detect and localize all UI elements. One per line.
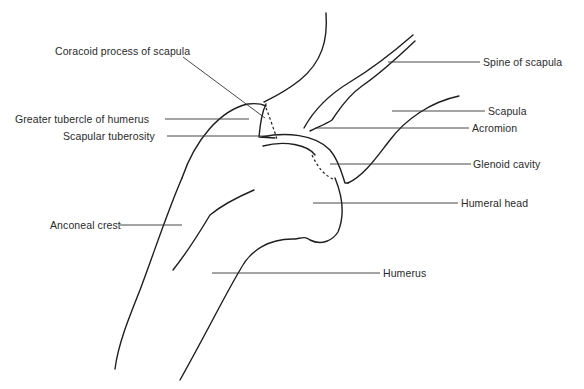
scapula-outline	[264, 13, 326, 102]
humerus-head-outline	[182, 104, 266, 178]
label-glenoid-cavity: Glenoid cavity	[473, 158, 540, 170]
scapula-body-line	[348, 96, 459, 183]
label-anconeal-crest: Anconeal crest	[50, 219, 121, 231]
label-scapular-tuberosity: Scapular tuberosity	[63, 130, 155, 142]
label-coracoid-process: Coracoid process of scapula	[55, 45, 190, 57]
anconeal-crest-line	[173, 190, 254, 270]
label-acromion: Acromion	[472, 122, 517, 134]
humeral-head-curve	[180, 178, 342, 380]
leader-coracoid	[183, 57, 265, 118]
spine-of-scapula-lower	[310, 41, 415, 131]
spine-of-scapula-upper	[304, 35, 413, 128]
glenoid-inner	[263, 143, 315, 155]
glenoid-rim	[262, 135, 348, 183]
label-spine-of-scapula: Spine of scapula	[483, 56, 562, 68]
label-greater-tubercle: Greater tubercle of humerus	[15, 113, 149, 125]
label-humerus: Humerus	[383, 267, 426, 279]
label-humeral-head: Humeral head	[461, 197, 528, 209]
humerus-shaft-left	[115, 178, 182, 369]
glenoid-dashed	[312, 155, 335, 180]
label-scapula: Scapula	[488, 105, 527, 117]
